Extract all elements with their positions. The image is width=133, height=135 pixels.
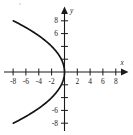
- coordinate-plane-svg: -8 -6 -4 -2 2 4 6 8 8 6 -6 -8 x y: [0, 0, 133, 135]
- y-axis-label: y: [69, 7, 74, 15]
- x-tick-label-8: 8: [114, 77, 118, 86]
- x-tick-label--2: -2: [49, 77, 55, 86]
- y-tick-label-6: 6: [54, 29, 58, 38]
- x-tick-label--8: -8: [10, 77, 16, 86]
- x-tick-label--4: -4: [36, 77, 42, 86]
- x-axis: [4, 69, 129, 76]
- x-axis-arrowhead: [121, 69, 129, 76]
- x-tick-label-2: 2: [75, 77, 79, 86]
- graph-figure: -8 -6 -4 -2 2 4 6 8 8 6 -6 -8 x y: [0, 0, 133, 135]
- y-tick-label-8: 8: [54, 16, 58, 25]
- y-tick-label--6: -6: [52, 106, 58, 115]
- y-tick-label--8: -8: [52, 119, 58, 128]
- x-tick-label--6: -6: [23, 77, 29, 86]
- x-tick-label-4: 4: [88, 77, 92, 86]
- x-axis-label: x: [119, 59, 124, 67]
- y-axis-arrowhead: [61, 7, 68, 15]
- x-tick-label-6: 6: [101, 77, 105, 86]
- image-artifact-speck: [19, 3, 21, 5]
